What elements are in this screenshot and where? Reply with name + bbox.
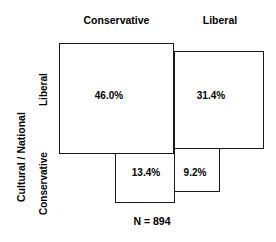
tile-value-liberal-conservative: 46.0% bbox=[79, 90, 139, 101]
sample-size-label: N = 894 bbox=[112, 215, 192, 227]
mosaic-plot: Conservative Liberal Cultural / National… bbox=[0, 0, 276, 242]
column-header-conservative: Conservative bbox=[60, 14, 173, 26]
row-label-liberal: Liberal bbox=[38, 73, 49, 106]
tile-value-conservative-liberal: 9.2% bbox=[175, 167, 215, 178]
tile-conservative-conservative bbox=[115, 153, 175, 203]
y-axis-title: Cultural / National bbox=[15, 112, 27, 202]
tile-value-liberal-liberal: 31.4% bbox=[181, 90, 241, 101]
row-label-conservative: Conservative bbox=[38, 152, 49, 215]
tile-value-conservative-conservative: 13.4% bbox=[116, 167, 176, 178]
column-header-liberal: Liberal bbox=[176, 14, 264, 26]
